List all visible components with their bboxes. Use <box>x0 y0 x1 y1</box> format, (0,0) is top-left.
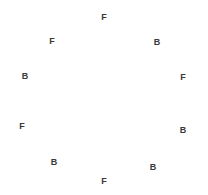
letter-circle-canvas: FBFBBFBFBF <box>0 0 208 195</box>
letter-marker-p6: F <box>101 177 107 186</box>
letter-marker-p1: F <box>101 13 107 22</box>
letter-marker-p10: F <box>49 37 55 46</box>
letter-marker-p4: B <box>180 126 187 135</box>
letter-marker-p8: F <box>19 122 25 131</box>
letter-marker-p9: B <box>22 72 29 81</box>
letter-marker-p2: B <box>154 38 161 47</box>
letter-marker-p5: B <box>150 163 157 172</box>
letter-marker-p3: F <box>180 73 186 82</box>
letter-marker-p7: B <box>51 158 58 167</box>
